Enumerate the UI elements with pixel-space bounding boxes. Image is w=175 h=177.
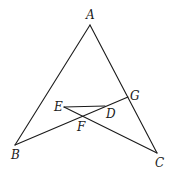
- segment-ed: [64, 106, 105, 107]
- point-label-b: B: [10, 148, 20, 162]
- geometry-diagram: A B C G E D F: [0, 0, 175, 177]
- segment-bg: [15, 97, 128, 145]
- segment-ac: [90, 25, 157, 153]
- point-label-a: A: [85, 8, 95, 22]
- point-label-d: D: [105, 107, 116, 121]
- point-label-e: E: [53, 100, 63, 114]
- point-label-c: C: [155, 156, 164, 170]
- point-label-g: G: [130, 89, 140, 103]
- point-label-f: F: [76, 120, 86, 134]
